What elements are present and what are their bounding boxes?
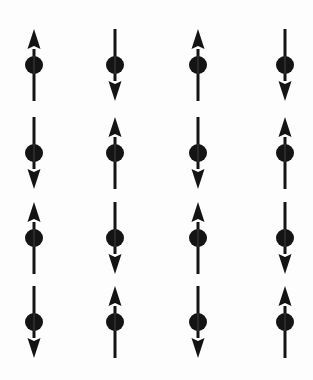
spin-lattice-canvas (0, 0, 313, 380)
spin-lattice-figure (0, 0, 313, 380)
figure-background (0, 0, 313, 380)
